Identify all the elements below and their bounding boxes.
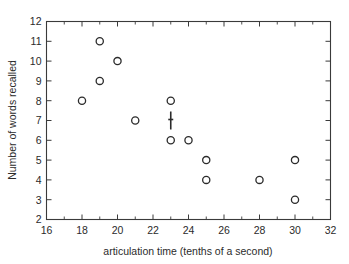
y-tick-label: 4 — [36, 174, 42, 186]
x-tick-label: 28 — [254, 224, 266, 236]
data-point — [78, 97, 85, 104]
y-tick-label: 3 — [36, 194, 42, 206]
y-tick-label: 11 — [31, 35, 42, 47]
data-points-layer — [78, 38, 298, 204]
data-point — [96, 77, 103, 84]
data-point — [291, 157, 298, 164]
x-tick-label: 30 — [289, 224, 301, 236]
y-tick-label: 7 — [36, 114, 42, 126]
data-point — [291, 196, 298, 203]
data-point — [132, 117, 139, 124]
x-tick-label: 32 — [325, 224, 337, 236]
data-point — [96, 38, 103, 45]
y-tick-label: 10 — [30, 55, 42, 67]
axes-frame — [47, 22, 331, 220]
y-tick-label: 5 — [36, 154, 42, 166]
data-point — [203, 176, 210, 183]
x-tick-label: 18 — [76, 224, 88, 236]
data-point — [256, 176, 263, 183]
x-axis-title: articulation time (tenths of a second) — [103, 245, 272, 257]
data-point — [185, 137, 192, 144]
y-tick-label: 2 — [36, 213, 42, 225]
x-axis-ticks: 161820222426283032 — [41, 22, 337, 236]
scatter-chart: 161820222426283032 23456789101112 articu… — [0, 0, 349, 264]
x-tick-label: 16 — [41, 224, 53, 236]
y-axis-ticks: 23456789101112 — [30, 15, 331, 225]
data-point — [167, 137, 174, 144]
y-tick-label: 6 — [36, 134, 42, 146]
y-tick-label: 8 — [36, 95, 42, 107]
x-tick-label: 24 — [183, 224, 195, 236]
data-point — [114, 58, 121, 65]
x-tick-label: 26 — [218, 224, 230, 236]
data-point — [167, 97, 174, 104]
y-axis-title: Number of words recalled — [6, 60, 18, 180]
plot-frame — [47, 22, 331, 220]
x-tick-label: 22 — [147, 224, 159, 236]
y-tick-label: 12 — [30, 15, 42, 27]
plot-canvas: 161820222426283032 23456789101112 articu… — [0, 0, 349, 264]
y-tick-label: 9 — [36, 75, 42, 87]
x-tick-label: 20 — [112, 224, 124, 236]
data-point — [203, 157, 210, 164]
